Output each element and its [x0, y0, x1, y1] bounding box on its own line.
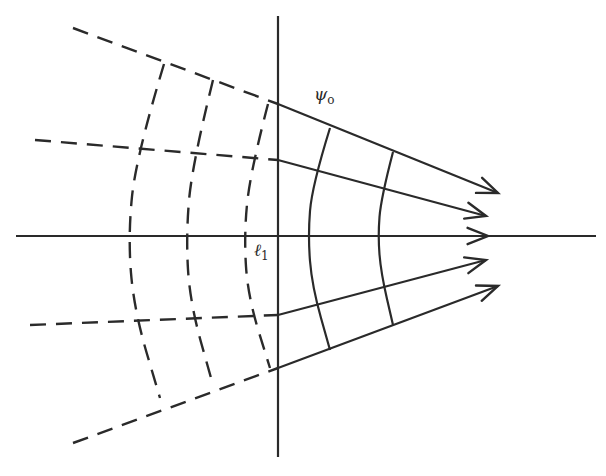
dashed-ray: [30, 315, 278, 325]
psi-symbol: ψ: [314, 84, 327, 104]
dashed-wavefront: [130, 64, 164, 398]
outgoing-solid-rays: [278, 104, 498, 368]
dashed-ray: [73, 28, 278, 104]
solid-ray: [278, 160, 486, 216]
dashed-ray: [73, 368, 278, 443]
outgoing-solid-wavefronts: [309, 128, 393, 350]
ell-one-label: ℓ1: [254, 240, 269, 263]
wavefront-diagram: [0, 0, 606, 476]
psi-zero-label: ψo: [314, 84, 335, 107]
solid-ray: [278, 104, 498, 193]
incoming-dashed-wavefronts: [130, 64, 270, 398]
solid-wavefront: [309, 128, 330, 350]
arrowhead-icons: [464, 178, 498, 301]
dashed-ray: [35, 140, 278, 160]
solid-wavefront: [379, 152, 393, 325]
psi-subscript: o: [327, 93, 334, 107]
dashed-wavefront: [187, 80, 213, 385]
solid-ray: [278, 286, 498, 368]
ell-subscript: 1: [261, 249, 269, 263]
